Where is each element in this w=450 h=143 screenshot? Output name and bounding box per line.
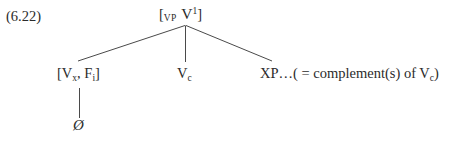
root-bracket-close: ] (197, 6, 202, 22)
node-specifier-vx-fi: [Vx, Fi] (57, 66, 100, 83)
syntax-tree-figure: (6.22) [VP V1] [Vx, Fi] Vc XP…( = comple… (0, 0, 450, 143)
null-element-glyph: Ø (73, 118, 84, 133)
complement-symbol: V (419, 65, 429, 81)
root-category-subscript: VP (164, 13, 177, 23)
head-subscript: c (187, 73, 191, 83)
specifier-bracket-close: ] (95, 65, 100, 81)
node-root-vp: [VP V1] (159, 6, 202, 24)
branch-line-to-specifier (78, 26, 185, 62)
root-head-symbol: V (181, 5, 192, 22)
complement-tail-text: ) (434, 65, 439, 81)
node-complement-xp: XP…( = complement(s) of Vc) (260, 66, 439, 83)
node-head-vc: Vc (177, 66, 192, 83)
head-symbol: V (177, 65, 187, 81)
complement-lead-text: XP…( = complement(s) of (260, 65, 419, 81)
specifier-first-symbol: V (62, 65, 72, 81)
branch-line-to-complement (186, 26, 272, 62)
